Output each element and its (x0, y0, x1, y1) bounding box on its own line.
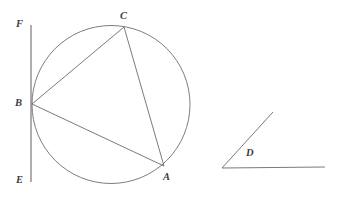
point-label-d: D (246, 148, 254, 159)
figure-canvas (0, 0, 343, 200)
point-label-b: B (15, 98, 22, 109)
point-label-c: C (120, 11, 127, 22)
chord-bc (32, 27, 124, 104)
point-label-f: F (16, 19, 23, 30)
chord-ca (124, 27, 164, 166)
point-label-e: E (16, 175, 23, 186)
circle-shape (32, 26, 190, 184)
geometry-figure: F B E C A D (0, 0, 343, 200)
angle-d-ray-horizontal (222, 167, 325, 168)
point-label-a: A (163, 172, 170, 183)
angle-d-ray-diagonal (222, 112, 273, 168)
